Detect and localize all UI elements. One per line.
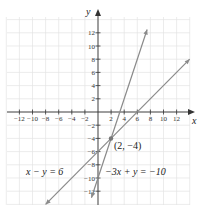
equation-label-2: −3x + y = −10 (105, 166, 166, 177)
intersection-point (109, 136, 113, 140)
equation-label-1: x − y = 6 (25, 166, 63, 177)
y-tick-label: −10 (84, 175, 95, 183)
graph: −12−10−8−6−4−224681012−12−10−8−6−4−22468… (0, 0, 200, 209)
y-tick-label: 10 (88, 43, 96, 51)
y-tick-label: −2 (88, 122, 96, 130)
arrowhead-icon (143, 30, 147, 35)
x-tick-label: 6 (136, 115, 140, 123)
y-tick-label: 12 (88, 29, 96, 37)
y-tick-label: −8 (88, 161, 96, 169)
x-tick-label: 10 (160, 115, 168, 123)
x-tick-label: −10 (27, 115, 38, 123)
x-tick-label: −8 (42, 115, 50, 123)
y-tick-label: 8 (92, 56, 96, 64)
x-axis-label: x (191, 115, 197, 126)
x-tick-label: −4 (68, 115, 76, 123)
y-tick-label: −4 (88, 135, 96, 143)
intersection-label: (2, −4) (114, 140, 141, 152)
x-tick-label: 8 (149, 115, 153, 123)
x-tick-label: 4 (122, 115, 126, 123)
line-series-1 (46, 59, 190, 204)
x-tick-label: −12 (14, 115, 25, 123)
x-tick-label: −6 (55, 115, 63, 123)
y-tick-label: 6 (92, 69, 96, 77)
y-axis-arrow-icon (95, 9, 101, 16)
y-tick-label: 2 (92, 95, 96, 103)
x-tick-label: 12 (173, 115, 181, 123)
y-tick-label: 4 (92, 82, 96, 90)
x-tick-label: 2 (109, 115, 113, 123)
y-axis-label: y (85, 6, 91, 17)
